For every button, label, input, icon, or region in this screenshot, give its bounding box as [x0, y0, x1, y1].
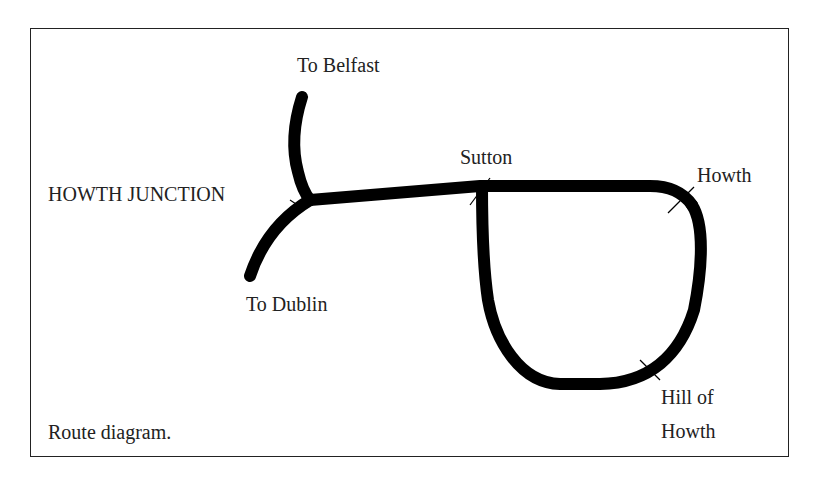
label-to-belfast: To Belfast: [297, 54, 379, 76]
line-to-dublin: [250, 200, 310, 276]
line-main: [310, 186, 692, 205]
label-howth: Howth: [697, 164, 751, 186]
label-to-dublin: To Dublin: [246, 293, 327, 315]
diagram-caption: Route diagram.: [48, 421, 171, 443]
label-hill-of-howth-1: Hill of: [661, 386, 714, 408]
line-to-belfast: [294, 97, 310, 200]
label-hill-of-howth-2: Howth: [661, 420, 715, 442]
station-ticks: [290, 178, 694, 380]
line-loop: [482, 186, 701, 384]
label-sutton: Sutton: [460, 146, 512, 168]
route-map: [0, 0, 821, 480]
label-howth-junction: HOWTH JUNCTION: [48, 183, 225, 205]
